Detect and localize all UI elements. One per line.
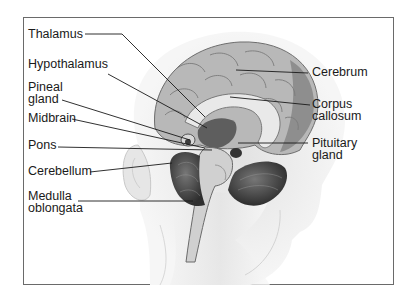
label-pituitary-line2: gland	[312, 149, 357, 161]
label-medulla-oblongata: Medulla oblongata	[28, 190, 83, 214]
label-midbrain: Midbrain	[28, 112, 76, 124]
label-corpus-line2: callosum	[312, 110, 361, 122]
label-corpus-callosum: Corpus callosum	[312, 98, 361, 122]
label-pituitary-gland: Pituitary gland	[312, 137, 357, 161]
label-pineal-line2: gland	[28, 93, 63, 105]
label-cerebrum: Cerebrum	[312, 66, 368, 78]
label-thalamus: Thalamus	[28, 28, 83, 40]
label-medulla-line2: oblongata	[28, 202, 83, 214]
label-hypothalamus: Hypothalamus	[28, 58, 108, 70]
label-pons: Pons	[28, 139, 57, 151]
label-cerebellum: Cerebellum	[28, 165, 92, 177]
label-pineal-gland: Pineal gland	[28, 81, 63, 105]
